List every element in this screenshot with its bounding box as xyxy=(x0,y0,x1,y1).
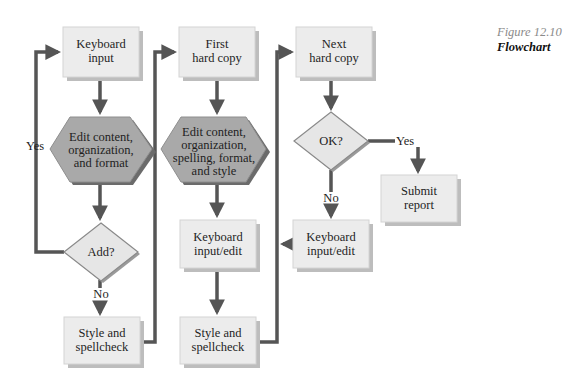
node-label: Submit xyxy=(401,184,438,198)
node-label: Next xyxy=(322,37,347,51)
node-label: OK? xyxy=(319,134,343,148)
node-label: Add? xyxy=(87,245,115,259)
flowchart-diagram: Keyboard input Edit content, organizatio… xyxy=(0,0,585,391)
figure-caption: Figure 12.10 Flowchart xyxy=(497,25,562,55)
node-keyboard-input-edit-1: Keyboard input/edit xyxy=(180,220,260,272)
node-keyboard-input: Keyboard input xyxy=(63,27,143,81)
node-label: Style and xyxy=(79,326,127,340)
edge-label-no: No xyxy=(93,287,108,301)
node-label: input/edit xyxy=(307,244,355,258)
node-edit-content-1: Edit content, organization, and format xyxy=(50,117,156,185)
node-ok-decision: OK? xyxy=(294,112,370,172)
node-style-spellcheck-1: Style and spellcheck xyxy=(64,317,144,368)
node-label: hard copy xyxy=(192,51,242,65)
node-label: spellcheck xyxy=(76,340,130,354)
node-label: spelling, format, xyxy=(173,151,255,165)
node-next-hard-copy: Next hard copy xyxy=(296,27,376,81)
node-submit-report: Submit report xyxy=(381,175,461,226)
node-label: First xyxy=(206,37,229,51)
figure-number: Figure 12.10 xyxy=(497,25,562,40)
edge-label-yes: Yes xyxy=(396,134,414,148)
node-label: input xyxy=(88,51,114,65)
node-label: Style and xyxy=(195,326,243,340)
node-label: organization, xyxy=(68,143,133,157)
node-label: Edit content, xyxy=(182,125,246,139)
arrow-style1-to-first-copy xyxy=(141,52,174,342)
node-label: Keyboard xyxy=(193,230,243,244)
node-keyboard-input-edit-2: Keyboard input/edit xyxy=(293,220,373,272)
node-label: Keyboard xyxy=(76,37,126,51)
node-first-hard-copy: First hard copy xyxy=(179,27,259,81)
edge-label-yes: Yes xyxy=(26,139,44,153)
node-label: and format xyxy=(74,156,129,170)
node-label: report xyxy=(404,198,434,212)
node-style-spellcheck-2: Style and spellcheck xyxy=(180,317,260,368)
node-label: organization, xyxy=(181,138,246,152)
node-label: Edit content, xyxy=(69,130,133,144)
node-label: and style xyxy=(192,164,237,178)
edge-label-no: No xyxy=(323,191,338,205)
node-label: hard copy xyxy=(309,51,359,65)
node-add-decision: Add? xyxy=(64,223,140,283)
node-label: Keyboard xyxy=(306,230,356,244)
node-edit-content-2: Edit content, organization, spelling, fo… xyxy=(161,117,270,185)
node-label: input/edit xyxy=(194,244,242,258)
node-label: spellcheck xyxy=(192,340,246,354)
figure-title: Flowchart xyxy=(497,40,562,55)
arrow-style2-to-next-copy xyxy=(257,52,291,342)
